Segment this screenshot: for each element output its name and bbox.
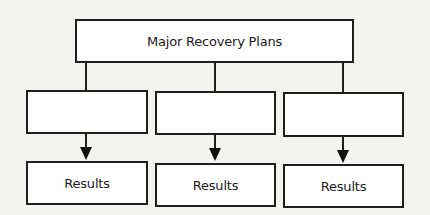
plan-box-3	[283, 92, 404, 137]
result-box-2-label: Results	[193, 178, 239, 193]
result-box-3-label: Results	[321, 179, 367, 194]
root-box-major-recovery-plans: Major Recovery Plans	[75, 19, 354, 63]
result-box-3: Results	[283, 164, 404, 208]
result-box-1-label: Results	[64, 176, 110, 191]
connector-root-to-plan-2	[214, 62, 216, 93]
plan-box-2	[155, 91, 276, 135]
flowchart-diagram: Major Recovery Plans Results Results Res…	[0, 0, 430, 215]
arrow-down-icon	[337, 150, 349, 163]
arrow-down-icon	[80, 147, 92, 160]
root-box-label: Major Recovery Plans	[147, 34, 282, 49]
arrow-down-icon	[209, 148, 221, 161]
result-box-2: Results	[155, 163, 276, 207]
connector-root-to-plan-1	[85, 62, 87, 92]
connector-root-to-plan-3	[342, 62, 344, 94]
result-box-1: Results	[26, 161, 148, 205]
plan-box-1	[26, 90, 148, 134]
